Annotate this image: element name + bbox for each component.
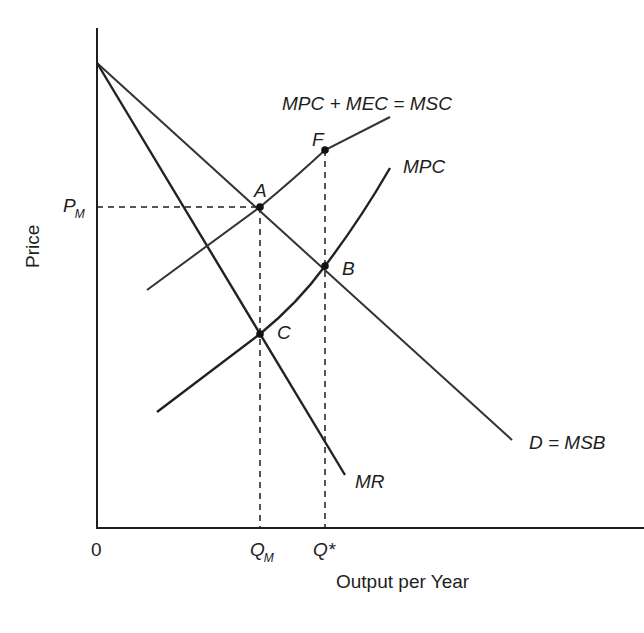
- x-axis-label: Output per Year: [336, 572, 469, 591]
- mpc-curve-label: MPC: [403, 157, 445, 176]
- externality-chart: Price Output per Year 0 PM QM Q* MPC + M…: [0, 0, 644, 633]
- point-a-marker: [256, 203, 264, 211]
- demand-curve: [97, 63, 512, 440]
- point-f-label: F: [312, 130, 324, 149]
- point-c-label: C: [277, 323, 291, 342]
- origin-label: 0: [91, 540, 102, 559]
- demand-curve-label: D = MSB: [529, 433, 606, 452]
- qm-tick-sub: M: [264, 551, 274, 565]
- point-b-label: B: [342, 259, 355, 278]
- qm-tick-label: QM: [250, 540, 275, 559]
- mr-curve: [97, 63, 345, 475]
- point-a-label: A: [254, 181, 267, 200]
- qstar-tick-label: Q*: [313, 540, 335, 559]
- pm-tick-main: P: [63, 195, 76, 216]
- pm-tick-label: PM: [63, 196, 86, 215]
- point-c-marker: [256, 330, 264, 338]
- qm-tick-main: Q: [250, 539, 265, 560]
- mpc-curve: [157, 168, 390, 412]
- y-axis-label: Price: [22, 225, 44, 268]
- pm-tick-sub: M: [75, 207, 85, 221]
- mr-curve-label: MR: [355, 472, 385, 491]
- point-b-marker: [321, 262, 329, 270]
- msc-curve-label: MPC + MEC = MSC: [282, 94, 452, 113]
